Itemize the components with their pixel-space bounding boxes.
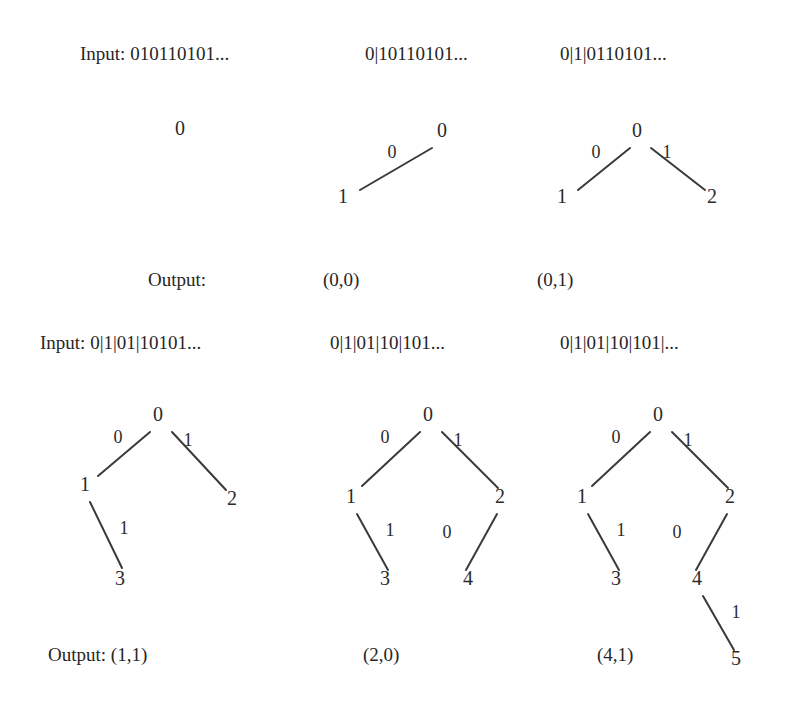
- row1-input-text-2: 0|10110101...: [365, 44, 468, 63]
- row1-output-value-2: (0,1): [537, 270, 573, 289]
- tree-4-edge-2: [172, 432, 226, 490]
- tree-5-node-1: 1: [346, 486, 356, 506]
- tree-5-edge-3: [357, 514, 388, 570]
- tree-4-edge-label-1: 0: [114, 428, 123, 446]
- row1-output-value-1: (0,0): [323, 270, 359, 289]
- tree-6-node-2: 2: [725, 486, 735, 506]
- tree-6-edge-label-5: 1: [732, 603, 741, 621]
- tree-6-edge-4: [696, 514, 727, 570]
- tree-6-edge-1: [592, 432, 650, 486]
- tree-4-node-0: 0: [153, 404, 163, 424]
- tree-3-edge-label-1: 0: [592, 143, 601, 161]
- row1-input-text-3: 0|1|0110101...: [560, 44, 667, 63]
- tree-4-node-2: 2: [227, 488, 237, 508]
- tree-5-edge-4: [466, 514, 497, 570]
- tree-6-edge-2: [672, 432, 728, 488]
- tree-6-edge-3: [588, 514, 619, 570]
- tree-5-edge-label-4: 0: [443, 523, 452, 541]
- row1-input-text-1: Input: 010110101...: [80, 44, 229, 63]
- tree-6-node-1: 1: [577, 486, 587, 506]
- tree-2-node-0: 0: [437, 120, 447, 140]
- tree-6-node-3: 3: [611, 568, 621, 588]
- tree-4-edge-label-3: 1: [120, 519, 129, 537]
- tree-6-edge-label-4: 0: [673, 523, 682, 541]
- tree-5-edge-label-2: 1: [454, 431, 463, 449]
- tree-4-node-1: 1: [80, 474, 90, 494]
- tree-5-edge-1: [362, 432, 420, 486]
- tree-5-node-2: 2: [495, 486, 505, 506]
- tree-1-node-0: 0: [175, 118, 185, 138]
- tree-3-node-1: 1: [557, 186, 567, 206]
- tree-6-edge-label-2: 1: [684, 431, 693, 449]
- tree-6-edge-label-1: 0: [612, 428, 621, 446]
- row2-input-text-2: 0|1|01|10|101...: [330, 333, 445, 352]
- tree-3-edge-1: [578, 148, 630, 190]
- tree-3-edge-2: [651, 148, 705, 190]
- tree-6-node-5: 5: [731, 648, 741, 668]
- tree-5-node-0: 0: [423, 404, 433, 424]
- tree-5-node-3: 3: [380, 568, 390, 588]
- row2-output-value-2: (4,1): [597, 645, 633, 664]
- tree-2-edge-label-1: 0: [388, 143, 397, 161]
- row2-output-label: Output: (1,1): [48, 645, 147, 664]
- row2-input-text-1: Input: 0|1|01|10101...: [40, 333, 201, 352]
- tree-5-node-4: 4: [463, 568, 473, 588]
- row1-output-label: Output:: [148, 270, 206, 289]
- tree-6-edge-label-3: 1: [617, 521, 626, 539]
- tree-2-node-1: 1: [338, 186, 348, 206]
- tree-6-node-0: 0: [653, 404, 663, 424]
- figure-canvas: Input: 010110101...0|10110101...0|1|0110…: [0, 0, 795, 703]
- tree-4-edge-label-2: 1: [184, 431, 193, 449]
- tree-4-edge-3: [90, 502, 122, 568]
- tree-6-edge-5: [703, 596, 734, 650]
- tree-3-edge-label-2: 1: [663, 143, 672, 161]
- tree-3-node-2: 2: [707, 186, 717, 206]
- row2-input-text-3: 0|1|01|10|101|...: [560, 333, 679, 352]
- tree-5-edge-label-3: 1: [386, 521, 395, 539]
- tree-4-node-3: 3: [115, 568, 125, 588]
- tree-5-edge-2: [442, 432, 498, 488]
- tree-6-node-4: 4: [692, 568, 702, 588]
- tree-4-edge-1: [98, 432, 150, 476]
- row2-output-value-1: (2,0): [363, 645, 399, 664]
- tree-5-edge-label-1: 0: [381, 428, 390, 446]
- tree-3-node-0: 0: [632, 120, 642, 140]
